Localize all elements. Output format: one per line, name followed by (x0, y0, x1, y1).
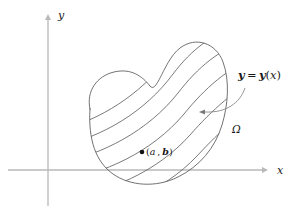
solution-curve (60, 77, 262, 199)
y-axis-arrowhead (45, 14, 51, 20)
y-axis-label: y (58, 10, 64, 21)
marked-point-dot (140, 150, 145, 155)
point-close-paren: ) (169, 146, 173, 157)
curve-label-equals: = (247, 68, 257, 82)
solution-curve (58, 58, 254, 181)
solution-curve (60, 27, 238, 146)
curve-label-close-paren: ) (277, 68, 282, 82)
curve-equation-label: y = y(x) (238, 70, 281, 82)
x-axis-arrowhead (262, 167, 268, 173)
point-b: b (162, 146, 169, 157)
curve-family-group (58, 16, 278, 220)
marked-point-label: (a , b) (146, 147, 173, 157)
solution-curve (70, 118, 278, 220)
curve-label-fn: y (259, 68, 266, 82)
solution-curve (58, 41, 246, 163)
x-axis-label: x (277, 165, 283, 176)
region-omega-label: Ω (232, 124, 241, 135)
figure-root: y x y = y(x) Ω (a , b) (0, 0, 295, 220)
figure-canvas (0, 0, 295, 220)
curve-label-leader (199, 88, 245, 115)
solution-curve (64, 97, 270, 217)
leader-arrowhead (199, 109, 205, 114)
curve-label-lhs: y (238, 68, 245, 82)
